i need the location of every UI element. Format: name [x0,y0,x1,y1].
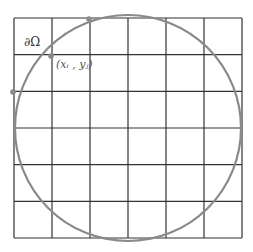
boundary-grid-point [10,89,16,95]
diagram-canvas: ∂Ω (xᵢ , yⱼ) [0,0,253,252]
boundary-grid-point [86,16,92,22]
boundary-grid-point [48,53,54,59]
boundary-label: ∂Ω [24,35,40,49]
grid-point-label: (xᵢ , yⱼ) [56,58,93,71]
